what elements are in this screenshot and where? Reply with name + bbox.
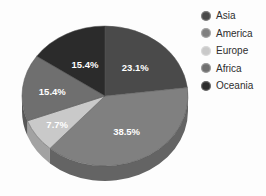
- legend-label-europe: Europe: [216, 45, 248, 56]
- legend-label-asia: Asia: [216, 10, 235, 21]
- legend-item-europe[interactable]: Europe: [201, 45, 266, 56]
- slice-label-europe: 7.7%: [46, 119, 68, 130]
- legend-swatch-africa-icon: [201, 63, 211, 73]
- legend-item-oceania[interactable]: Oceania: [201, 80, 266, 91]
- chart-legend: Asia America Europe Africa Oceania: [201, 10, 266, 91]
- legend-item-asia[interactable]: Asia: [201, 10, 266, 21]
- legend-item-america[interactable]: America: [201, 28, 266, 39]
- legend-label-america: America: [216, 28, 253, 39]
- legend-swatch-europe-icon: [201, 46, 211, 56]
- legend-item-africa[interactable]: Africa: [201, 63, 266, 74]
- slice-label-africa: 15.4%: [39, 86, 66, 97]
- legend-label-oceania: Oceania: [216, 80, 253, 91]
- legend-swatch-asia-icon: [201, 11, 211, 21]
- pie-chart-figure: 23.1%38.5%7.7%15.4%15.4% Asia America Eu…: [0, 0, 266, 196]
- pie-slice-asia[interactable]: [105, 26, 187, 96]
- pie-chart-graphic: 23.1%38.5%7.7%15.4%15.4%: [0, 0, 200, 196]
- slice-label-asia: 23.1%: [122, 62, 149, 73]
- legend-label-africa: Africa: [216, 63, 242, 74]
- legend-swatch-america-icon: [201, 28, 211, 38]
- legend-swatch-oceania-icon: [201, 81, 211, 91]
- slice-label-oceania: 15.4%: [71, 59, 98, 70]
- slice-label-america: 38.5%: [113, 126, 140, 137]
